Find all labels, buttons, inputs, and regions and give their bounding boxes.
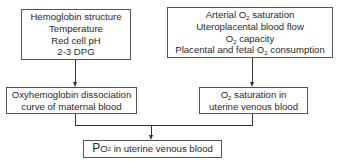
node-line: uterine venous blood: [209, 101, 298, 113]
connector-line: [75, 125, 253, 126]
node-line: 2-3 DPG: [57, 46, 94, 58]
node-line: Arterial O2 saturation: [206, 9, 295, 21]
connector-line: [151, 125, 152, 135]
node-line: Placental and fetal O2 consumption: [175, 44, 325, 56]
connector-line: [252, 114, 253, 125]
node-dissociation-curve: Oxyhemoglobin dissociation curve of mate…: [6, 87, 137, 114]
node-line: O2 capacity: [226, 33, 275, 45]
node-line: curve of maternal blood: [21, 101, 121, 113]
node-line: Temperature: [49, 23, 103, 35]
connector-line: [75, 60, 76, 82]
node-hemoglobin-factors: Hemoglobin structure Temperature Red cel…: [21, 9, 131, 60]
node-uterine-venous-saturation: O2 saturation in uterine venous blood: [199, 87, 308, 114]
connector-line: [75, 114, 76, 125]
connector-line: [252, 58, 253, 82]
node-uterine-venous-po2: PO2 in uterine venous blood: [83, 140, 222, 158]
node-line: Oxyhemoglobin dissociation: [12, 89, 131, 101]
node-line: O2 saturation in: [221, 89, 287, 101]
node-oxygen-delivery-factors: Arterial O2 saturation Uteroplacental bl…: [167, 7, 333, 58]
node-text: P: [92, 143, 100, 155]
node-line: Hemoglobin structure: [30, 11, 121, 23]
node-line: Red cell pH: [51, 35, 101, 47]
node-line: Uteroplacental blood flow: [196, 21, 304, 33]
